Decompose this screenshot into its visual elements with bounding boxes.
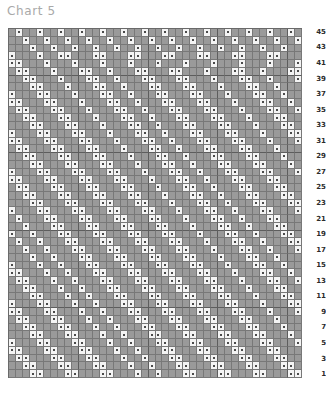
chart-cell [239, 130, 246, 138]
chart-cell [267, 60, 274, 68]
chart-cell [232, 285, 239, 293]
chart-cell [190, 176, 197, 184]
chart-cell [121, 254, 128, 262]
chart-cell [121, 184, 128, 192]
chart-cell [121, 114, 128, 122]
chart-cell [288, 238, 295, 246]
chart-cell [128, 246, 135, 254]
chart-cell [267, 138, 274, 146]
chart-cell [281, 223, 288, 231]
chart-cell [100, 215, 107, 223]
chart-cell [37, 269, 44, 277]
chart-cell [176, 331, 183, 339]
chart-cell [225, 91, 232, 99]
chart-cell [239, 52, 246, 60]
chart-cell [156, 29, 163, 37]
chart-cell [51, 76, 58, 84]
chart-cell [232, 107, 239, 115]
chart-cell [239, 45, 246, 53]
chart-cell [295, 269, 302, 277]
chart-cell [162, 76, 169, 84]
chart-cell [218, 107, 225, 115]
chart-cell [58, 161, 65, 169]
chart-cell [225, 200, 232, 208]
chart-cell [72, 316, 79, 324]
chart-cell [267, 37, 274, 45]
chart-cell [107, 99, 114, 107]
chart-cell [288, 76, 295, 84]
chart-cell [156, 238, 163, 246]
chart-cell [246, 223, 253, 231]
chart-cell [121, 269, 128, 277]
chart-cell [149, 262, 156, 270]
chart-cell [114, 316, 121, 324]
chart-cell [281, 293, 288, 301]
chart-page: Chart 5 45434139373533312927252321191715… [0, 0, 326, 405]
chart-cell [65, 246, 72, 254]
chart-cell [142, 246, 149, 254]
chart-cell [142, 176, 149, 184]
chart-cell [288, 231, 295, 239]
chart-cell [107, 331, 114, 339]
chart-cell [65, 285, 72, 293]
chart-cell [260, 223, 267, 231]
chart-cell [65, 83, 72, 91]
chart-cell [225, 37, 232, 45]
chart-cell [16, 37, 23, 45]
chart-cell [176, 114, 183, 122]
chart-cell [135, 293, 142, 301]
chart-cell [197, 316, 204, 324]
chart-cell [281, 161, 288, 169]
chart-cell [44, 370, 51, 378]
chart-cell [9, 60, 16, 68]
chart-cell [288, 138, 295, 146]
chart-cell [128, 254, 135, 262]
chart-cell [93, 184, 100, 192]
chart-cell [246, 300, 253, 308]
chart-cell [204, 293, 211, 301]
chart-cell [72, 262, 79, 270]
chart-cell [239, 285, 246, 293]
chart-cell [100, 231, 107, 239]
chart-cell [149, 37, 156, 45]
chart-cell [114, 207, 121, 215]
chart-cell [204, 161, 211, 169]
chart-cell [253, 331, 260, 339]
chart-cell [100, 176, 107, 184]
chart-cell [149, 99, 156, 107]
chart-cell [239, 324, 246, 332]
chart-cell [44, 176, 51, 184]
chart-cell [225, 192, 232, 200]
chart-cell [232, 347, 239, 355]
chart-cell [86, 161, 93, 169]
chart-cell [30, 370, 37, 378]
chart-cell [176, 269, 183, 277]
chart-cell [246, 45, 253, 53]
chart-cell [176, 308, 183, 316]
chart-cell [142, 169, 149, 177]
chart-cell [121, 331, 128, 339]
chart-cell [281, 37, 288, 45]
stitch-chart-grid-container [8, 28, 302, 378]
chart-cell [288, 362, 295, 370]
chart-cell [100, 122, 107, 130]
chart-cell [79, 29, 86, 37]
chart-cell [79, 176, 86, 184]
chart-cell [267, 200, 274, 208]
chart-cell [44, 107, 51, 115]
chart-cell [211, 362, 218, 370]
chart-cell [58, 285, 65, 293]
chart-cell [176, 68, 183, 76]
chart-cell [211, 192, 218, 200]
chart-cell [211, 207, 218, 215]
chart-cell [253, 347, 260, 355]
chart-cell [16, 339, 23, 347]
chart-cell [274, 262, 281, 270]
chart-cell [128, 138, 135, 146]
chart-cell [100, 60, 107, 68]
chart-cell [65, 200, 72, 208]
chart-cell [225, 269, 232, 277]
chart-cell [100, 68, 107, 76]
chart-cell [58, 192, 65, 200]
chart-cell [37, 161, 44, 169]
